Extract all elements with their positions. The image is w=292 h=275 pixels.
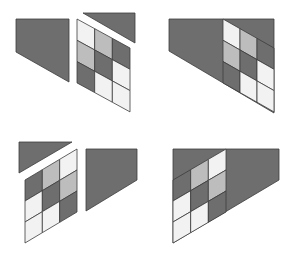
figure-top-left [16, 13, 135, 112]
geometric-dissection-diagram [0, 0, 292, 275]
diagram-canvas [0, 0, 292, 275]
figure-bottom-right [173, 149, 279, 243]
trapezoid-piece [16, 19, 69, 82]
figure-top-right [169, 19, 274, 113]
figure-bottom-left [19, 142, 137, 243]
trapezoid-piece [86, 149, 137, 211]
